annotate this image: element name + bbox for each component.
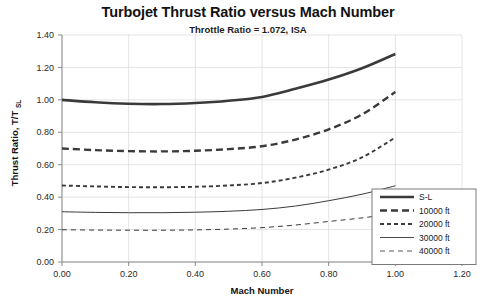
legend-label-s-l: S-L [419,192,433,202]
x-tick-label: 0.80 [320,269,338,279]
y-axis-title-main: Thrust Ratio, T/T [9,111,20,187]
chart-plot: 0.000.200.400.600.801.001.20 0.000.200.4… [0,0,496,302]
y-tick-label: 0.20 [36,225,54,235]
x-tick-labels: 0.000.200.400.600.801.001.20 [53,269,471,279]
y-tick-label: 1.40 [36,30,54,40]
chart-container: Turbojet Thrust Ratio versus Mach Number… [0,0,496,302]
x-tick-label: 0.40 [187,269,205,279]
legend-label-30000-ft: 30000 ft [419,233,450,243]
y-tick-label: 0.60 [36,160,54,170]
y-tick-label: 0.00 [36,257,54,267]
series-line-s-l [62,54,395,104]
legend-label-20000-ft: 20000 ft [419,219,450,229]
series-line-30000-ft [62,186,395,213]
chart-legend: S-L10000 ft20000 ft30000 ft40000 ft [372,189,476,265]
x-tick-label: 0.00 [53,269,71,279]
series-line-20000-ft [62,137,395,187]
x-tick-label: 0.60 [253,269,271,279]
legend-label-40000-ft: 40000 ft [419,246,450,256]
y-tick-labels: 0.000.200.400.600.801.001.201.40 [36,30,54,267]
y-axis-title: Thrust Ratio, T/TSL [9,100,22,187]
data-series [62,54,395,230]
y-tick-label: 1.00 [36,95,54,105]
y-tick-label: 0.80 [36,127,54,137]
y-axis-title-subscript: SL [15,100,22,108]
y-tick-label: 1.20 [36,63,54,73]
x-tick-label: 1.00 [387,269,405,279]
x-tick-label: 0.20 [120,269,138,279]
series-line-40000-ft [62,214,395,231]
x-tick-label: 1.20 [453,269,471,279]
legend-label-10000-ft: 10000 ft [419,206,450,216]
y-tick-label: 0.40 [36,192,54,202]
x-axis-title: Mach Number [231,285,294,296]
